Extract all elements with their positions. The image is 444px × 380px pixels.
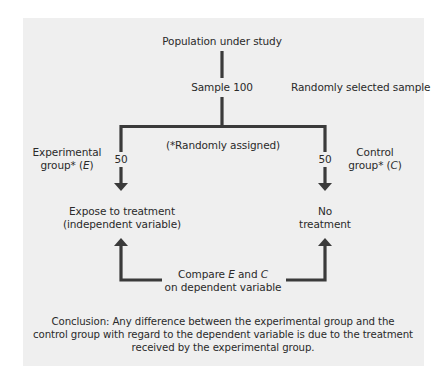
symbol-c: C — [391, 159, 398, 171]
arrow-up-icon — [318, 238, 332, 246]
node-population: Population under study — [162, 35, 282, 48]
symbol-c: C — [261, 268, 268, 280]
connector-compare-left — [121, 246, 162, 280]
experimental-outcome: Expose to treatment (independent variabl… — [63, 205, 181, 231]
control-count: 50 — [317, 152, 332, 167]
node-sample: Sample 100 — [189, 81, 255, 94]
control-outcome: No treatment — [299, 205, 351, 231]
arrow-up-icon — [114, 238, 128, 246]
arrow-down-icon — [318, 183, 332, 191]
experimental-group-label: Experimental group* (E) — [33, 146, 102, 172]
connector-compare-right — [286, 246, 325, 280]
experimental-count: 50 — [113, 152, 128, 167]
control-group-label: Control group* (C) — [348, 146, 402, 172]
arrow-down-icon — [114, 183, 128, 191]
assignment-note: (*Randomly assigned) — [166, 139, 280, 152]
connector-split — [121, 127, 325, 184]
compare-node: Compare E and C on dependent variable — [165, 268, 282, 294]
sample-note: Randomly selected sample — [291, 81, 430, 94]
conclusion-text: Conclusion: Any difference between the e… — [33, 315, 413, 354]
